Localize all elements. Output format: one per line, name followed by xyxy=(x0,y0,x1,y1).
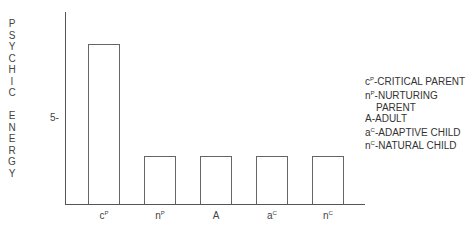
y-axis-label-letter: Y xyxy=(7,168,17,180)
legend-entry: PARENT xyxy=(365,102,465,114)
x-tick-label: cP xyxy=(84,210,124,221)
legend-entry: nP-NURTURING xyxy=(365,88,465,102)
legend-entry: nC-NATURAL CHILD xyxy=(365,138,465,152)
x-axis-line xyxy=(65,204,365,205)
y-tick-5: 5- xyxy=(50,112,59,123)
x-tick-label: aC xyxy=(252,210,292,221)
legend-entry: cP-CRITICAL PARENT xyxy=(365,74,465,88)
y-axis-label: PSYCHIC ENERGY xyxy=(7,18,17,179)
y-axis-label-letter: C xyxy=(7,87,17,99)
y-axis-label-letter: H xyxy=(7,64,17,76)
y-axis-label-letter: I xyxy=(7,76,17,88)
y-axis-label-letter: E xyxy=(7,133,17,145)
x-tick-label: nC xyxy=(308,210,348,221)
y-axis-label-letter xyxy=(7,99,17,111)
y-axis-label-letter: N xyxy=(7,122,17,134)
bar-A xyxy=(200,156,232,204)
y-axis-label-letter: E xyxy=(7,110,17,122)
bar-nP xyxy=(144,156,176,204)
x-tick-label: nP xyxy=(140,210,180,221)
legend-entry: A-ADULT xyxy=(365,113,465,125)
bar-aC xyxy=(256,156,288,204)
legend: cP-CRITICAL PARENTnP-NURTURINGPARENTA-AD… xyxy=(365,74,465,152)
y-axis-label-letter: Y xyxy=(7,41,17,53)
y-axis-label-letter: C xyxy=(7,53,17,65)
legend-entry: aC-ADAPTIVE CHILD xyxy=(365,125,465,139)
x-tick-label: A xyxy=(196,210,236,221)
y-axis-label-letter: G xyxy=(7,156,17,168)
bar-nC xyxy=(312,156,344,204)
bar-cP xyxy=(88,44,120,204)
y-axis-label-letter: P xyxy=(7,18,17,30)
y-axis-line xyxy=(65,12,66,205)
y-axis-label-letter: R xyxy=(7,145,17,157)
y-axis-label-letter: S xyxy=(7,30,17,42)
